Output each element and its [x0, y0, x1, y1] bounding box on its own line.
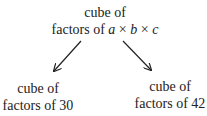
arrow-right — [123, 41, 151, 70]
arrow-left — [54, 41, 81, 71]
child-left-line2: factors of 30 — [0, 97, 76, 114]
child-right-line2: factors of 42 — [133, 95, 207, 112]
child-node-left: cube of factors of 30 — [0, 80, 76, 114]
child-node-right: cube of factors of 42 — [133, 78, 207, 112]
child-left-line1: cube of — [0, 80, 76, 97]
child-right-line1: cube of — [133, 78, 207, 95]
